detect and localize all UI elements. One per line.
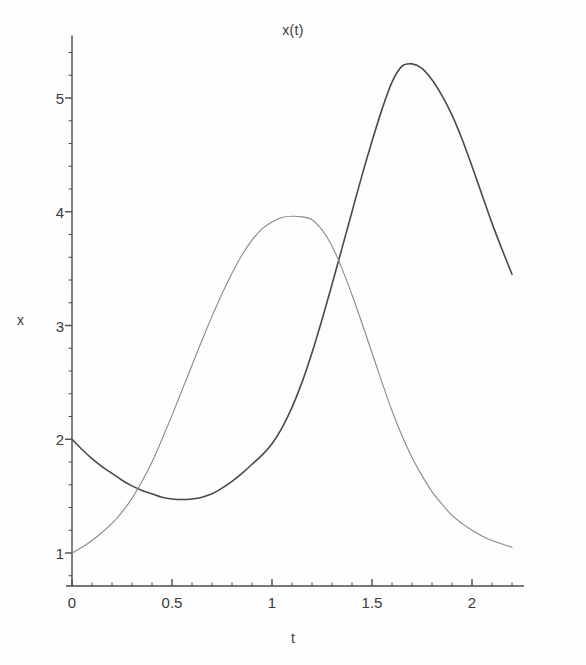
plot-area	[0, 0, 586, 665]
axes	[65, 35, 524, 586]
y-tick-label: 3	[38, 317, 64, 334]
y-tick-label: 5	[38, 90, 64, 107]
series-light-curve	[72, 216, 512, 553]
x-tick-label: 1.5	[362, 594, 383, 611]
series-dark-curve	[72, 64, 512, 500]
chart-canvas: x(t) x t 1234500.511.52	[0, 0, 586, 665]
x-tick-label: 0	[68, 594, 76, 611]
x-tick-label: 2	[468, 594, 476, 611]
data-series-group	[72, 64, 512, 553]
x-tick-label: 1	[268, 594, 276, 611]
x-tick-label: 0.5	[162, 594, 183, 611]
y-tick-label: 1	[38, 545, 64, 562]
y-tick-label: 2	[38, 431, 64, 448]
y-tick-label: 4	[38, 203, 64, 220]
